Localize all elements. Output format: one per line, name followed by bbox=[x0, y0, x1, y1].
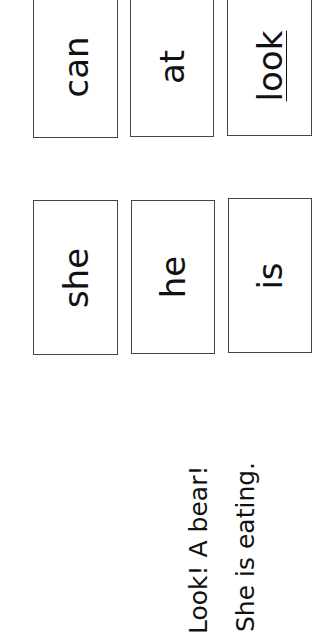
card-he: he bbox=[131, 200, 215, 354]
card-can: can bbox=[33, 0, 118, 138]
card-at: at bbox=[130, 0, 214, 137]
sight-word: she bbox=[59, 247, 93, 307]
card-look: look bbox=[227, 0, 312, 136]
card-she: she bbox=[33, 200, 118, 355]
sight-word: is bbox=[253, 262, 287, 289]
sight-word: look bbox=[253, 31, 287, 102]
card-is: is bbox=[228, 198, 312, 353]
sight-word: he bbox=[156, 256, 190, 298]
sentence-2: She is eating. bbox=[233, 462, 258, 632]
sight-word: at bbox=[155, 49, 189, 83]
sight-word: can bbox=[59, 36, 93, 97]
sentence-1: Look! A bear! bbox=[186, 466, 211, 634]
